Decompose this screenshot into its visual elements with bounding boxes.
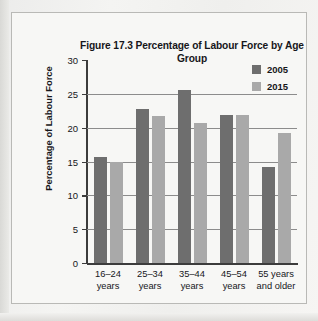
- y-axis-tick: [82, 263, 87, 264]
- bar-2015-3: [194, 123, 207, 263]
- bar-2015-2: [152, 116, 165, 264]
- y-axis-tick-label: 25: [67, 88, 78, 99]
- page-edge-shadow-left: [0, 0, 9, 321]
- x-axis-tick-label: 55 yearsand older: [247, 269, 305, 292]
- bar-2005-1: [94, 157, 107, 263]
- gridline: [87, 94, 297, 95]
- bar-2015-4: [236, 115, 249, 263]
- y-axis-tick: [82, 94, 87, 95]
- y-axis-tick: [82, 60, 87, 61]
- page-edge-shadow-bottom: [0, 313, 318, 321]
- y-axis-tick: [82, 229, 87, 230]
- gridline: [87, 128, 297, 129]
- x-axis-line: [87, 263, 298, 265]
- y-axis-tick-label: 15: [67, 156, 78, 167]
- y-axis-tick-label: 5: [73, 224, 78, 235]
- y-axis-tick-label: 10: [67, 190, 78, 201]
- bar-2005-4: [220, 115, 233, 263]
- bar-2005-5: [262, 167, 275, 263]
- y-axis-tick: [82, 128, 87, 129]
- x-axis-tick-label-line-1: 55 years: [247, 269, 305, 281]
- y-axis-tick-label: 20: [67, 122, 78, 133]
- y-axis-title: Percentage of Labour Force: [43, 49, 54, 209]
- bar-2015-5: [278, 133, 291, 263]
- figure-frame: Figure 17.3 Percentage of Labour Force b…: [11, 12, 307, 304]
- plot-area: 051015202530: [87, 60, 297, 263]
- y-axis-tick-label: 0: [73, 258, 78, 269]
- x-axis-tick-label-line-2: and older: [247, 281, 305, 293]
- bar-2005-2: [136, 109, 149, 263]
- y-axis-tick-label: 30: [67, 55, 78, 66]
- chart-title-line-1: Figure 17.3 Percentage of Labour Force: [80, 40, 268, 51]
- y-axis-tick: [82, 195, 87, 196]
- y-axis-tick: [82, 162, 87, 163]
- bar-2015-1: [110, 162, 123, 264]
- bar-2005-3: [178, 90, 191, 263]
